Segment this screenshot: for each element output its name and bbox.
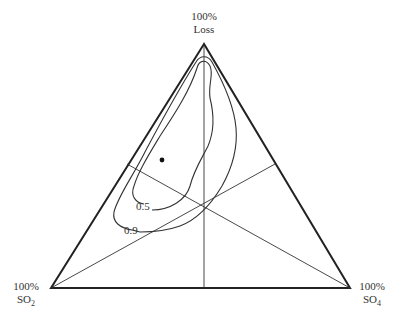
vertex-label-so2-name: SO2 (6, 293, 46, 306)
contour-label-0.5: 0.5 (136, 200, 150, 212)
vertex-label-so2: 100% SO2 (6, 280, 46, 306)
vertex-label-so4: 100% SO4 (352, 280, 392, 306)
vertex-label-loss-percent: 100% (184, 10, 224, 23)
vertex-label-so4-percent: 100% (352, 280, 392, 293)
vertex-label-so2-percent: 100% (6, 280, 46, 293)
so2-subscript: 2 (31, 299, 35, 308)
contour-0.5 (133, 61, 213, 210)
contour-label-0.9: 0.9 (124, 224, 138, 236)
vertex-label-loss: 100% Loss (184, 10, 224, 36)
vertex-label-loss-name: Loss (184, 23, 224, 36)
so4-subscript: 4 (377, 299, 381, 308)
so2-main: SO (17, 293, 31, 305)
data-point (160, 158, 165, 163)
median-from-left (51, 164, 275, 288)
contour-0.9 (114, 57, 237, 232)
so4-main: SO (363, 293, 377, 305)
ternary-diagram: 0.5 0.9 (0, 0, 397, 320)
triangle-outline (51, 44, 350, 288)
median-from-right (127, 164, 350, 288)
vertex-label-so4-name: SO4 (352, 293, 392, 306)
